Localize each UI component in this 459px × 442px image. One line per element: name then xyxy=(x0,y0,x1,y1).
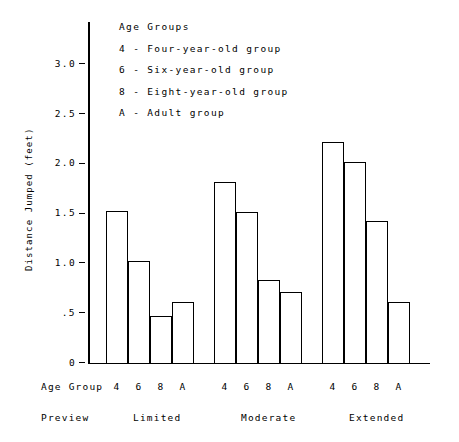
y-tick-mark xyxy=(79,163,85,164)
legend: Age Groups 4 - Four-year-old group 6 - S… xyxy=(119,16,289,124)
bar-extended-8 xyxy=(366,221,388,363)
legend-entry-6: 6 - Six-year-old group xyxy=(119,59,289,81)
legend-entry-8: 8 - Eight-year-old group xyxy=(119,81,289,103)
y-tick-label: 2.0 xyxy=(40,157,76,168)
y-tick-label: 1.0 xyxy=(40,257,76,268)
y-tick-label: 1.5 xyxy=(40,207,76,218)
y-tick-mark xyxy=(79,63,85,64)
condition-label-moderate: Moderate xyxy=(241,412,296,423)
y-axis-title: Distance Jumped (feet) xyxy=(24,131,34,271)
bar-moderate-4 xyxy=(214,182,236,363)
y-axis-line xyxy=(88,22,90,364)
bar-limited-A xyxy=(172,302,194,364)
x-tick-label: 6 xyxy=(237,381,257,392)
preview-row-label: Preview xyxy=(41,412,89,423)
y-tick-mark xyxy=(79,362,85,363)
bar-limited-6 xyxy=(128,261,150,364)
y-tick-mark xyxy=(79,312,85,313)
bar-extended-A xyxy=(388,302,410,364)
x-tick-label: 4 xyxy=(107,381,127,392)
legend-entry-A: A - Adult group xyxy=(119,102,289,124)
bar-moderate-8 xyxy=(258,280,280,364)
x-tick-label: A xyxy=(173,381,193,392)
bar-moderate-6 xyxy=(236,212,258,363)
legend-entry-4: 4 - Four-year-old group xyxy=(119,38,289,60)
y-tick-label: .5 xyxy=(40,307,76,318)
bar-limited-8 xyxy=(150,316,172,364)
x-tick-label: 8 xyxy=(367,381,387,392)
x-tick-label: 6 xyxy=(129,381,149,392)
y-tick-mark xyxy=(79,262,85,263)
x-tick-label: 6 xyxy=(345,381,365,392)
x-tick-label: A xyxy=(389,381,409,392)
y-tick-label: 0 xyxy=(40,357,76,368)
bar-extended-6 xyxy=(344,162,366,363)
bar-limited-4 xyxy=(106,211,128,363)
x-tick-label: 8 xyxy=(151,381,171,392)
x-tick-label: A xyxy=(281,381,301,392)
x-tick-label: 4 xyxy=(323,381,343,392)
y-tick-mark xyxy=(79,113,85,114)
bar-moderate-A xyxy=(280,292,302,364)
bar-extended-4 xyxy=(322,142,344,363)
y-tick-mark xyxy=(79,213,85,214)
x-tick-label: 4 xyxy=(215,381,235,392)
legend-title: Age Groups xyxy=(119,16,289,38)
bar-chart: Distance Jumped (feet) 0.51.01.52.02.53.… xyxy=(0,0,459,442)
y-tick-label: 2.5 xyxy=(40,108,76,119)
y-tick-label: 3.0 xyxy=(40,58,76,69)
x-tick-label: 8 xyxy=(259,381,279,392)
condition-label-extended: Extended xyxy=(349,412,404,423)
condition-label-limited: Limited xyxy=(133,412,181,423)
age-group-row-label: Age Group xyxy=(41,381,103,392)
